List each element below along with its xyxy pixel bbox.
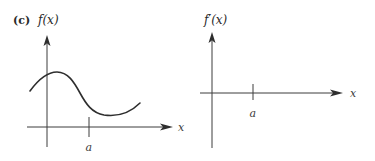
derivative-sketch-figure: (c) f(x) x a f′(x) x a <box>0 0 375 161</box>
left-y-axis-label: f(x) <box>37 13 59 27</box>
panel-label: (c) <box>13 14 30 27</box>
right-y-axis-label: f′(x) <box>203 13 228 27</box>
right-x-axis-label: x <box>350 87 357 100</box>
left-x-axis-label: x <box>178 121 185 134</box>
left-tick-a-label: a <box>86 141 93 154</box>
right-panel-fprime: f′(x) x a <box>200 13 357 148</box>
left-panel-fx: (c) f(x) x a <box>13 13 185 154</box>
right-tick-a-label: a <box>250 107 257 120</box>
